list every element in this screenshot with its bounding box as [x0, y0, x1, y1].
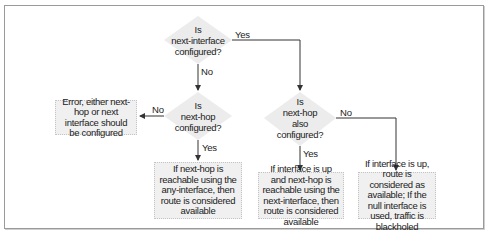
outcome-text: If next-hop is reachable using the any-i…	[158, 164, 238, 217]
decision-line: configured?	[264, 129, 336, 140]
edge-label-d3-yes: Yes	[303, 148, 318, 159]
edge-label-d1-no: No	[201, 66, 213, 77]
decision-line: configured?	[164, 122, 232, 133]
outcome-error: Error, either next-hop or next interface…	[55, 100, 137, 135]
edge-label-d3-no: No	[340, 107, 352, 118]
decision-line: configured?	[164, 46, 232, 57]
decision-next-interface: Is next-interface configured?	[164, 24, 232, 57]
decision-line: Is	[264, 96, 336, 107]
decision-next-hop: Is next-hop configured?	[164, 100, 232, 133]
decision-line: Is	[164, 100, 232, 111]
outcome-next-interface: If interface is up and next-hop is reach…	[258, 172, 344, 219]
decision-line: next-interface	[164, 35, 232, 46]
outcome-any-interface: If next-hop is reachable using the any-i…	[154, 162, 242, 219]
edge-label-d1-yes: Yes	[235, 29, 250, 40]
edge-label-d2-no: No	[152, 104, 164, 115]
edge-label-d2-yes: Yes	[202, 142, 217, 153]
outcome-null-interface: If interface is up, route is considered …	[358, 172, 436, 219]
decision-line: also	[264, 118, 336, 129]
outcome-text: If interface is up and next-hop is reach…	[262, 164, 340, 227]
outcome-text: Error, either next-hop or next interface…	[59, 97, 133, 139]
outcome-text: If interface is up, route is considered …	[362, 159, 432, 233]
decision-next-hop-also: Is next-hop also configured?	[264, 96, 336, 140]
decision-line: next-hop	[164, 111, 232, 122]
decision-line: Is	[164, 24, 232, 35]
decision-line: next-hop	[264, 107, 336, 118]
